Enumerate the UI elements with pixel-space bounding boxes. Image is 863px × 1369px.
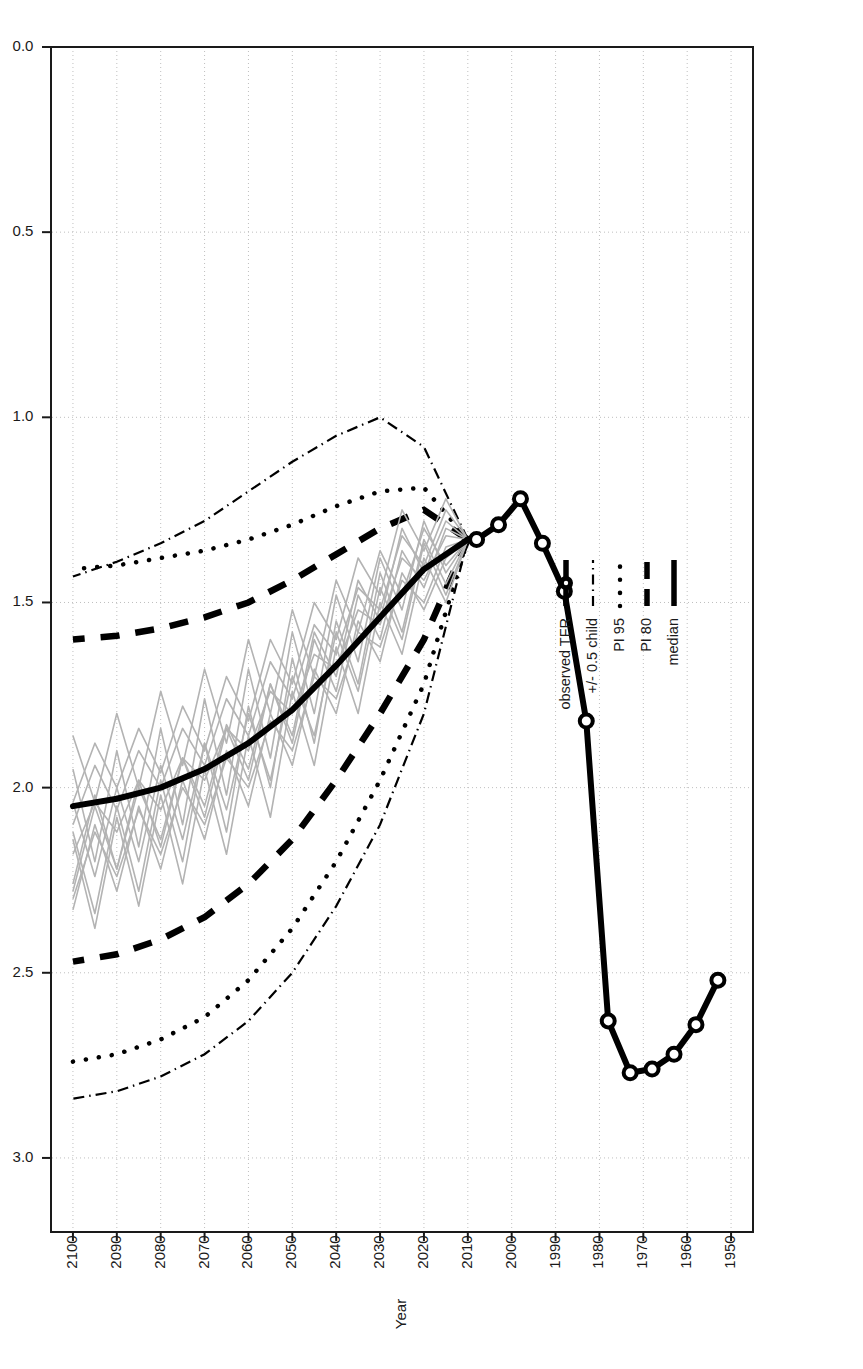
legend-item-label: observed TFR — [557, 618, 573, 710]
observed-point-marker — [492, 518, 505, 531]
tfr-projection-figure: 1950196019701980199020002010202020302040… — [0, 0, 863, 1369]
y-tick-label: 1.5 — [13, 592, 34, 609]
legend-item-label: +/- 0.5 child — [584, 618, 600, 693]
observed-point-marker — [514, 492, 527, 505]
x-tick-label: 1950 — [721, 1235, 738, 1268]
x-tick-label: 2040 — [326, 1235, 343, 1268]
y-tick-label: 0.0 — [13, 37, 34, 54]
x-tick-label: 1970 — [633, 1235, 650, 1268]
x-tick-label: 2020 — [414, 1235, 431, 1268]
observed-point-marker — [470, 533, 483, 546]
figure-background — [0, 0, 863, 1369]
x-tick-label: 1990 — [546, 1235, 563, 1268]
x-tick-label: 1980 — [589, 1235, 606, 1268]
y-tick-label: 0.5 — [13, 222, 34, 239]
legend-item-label: PI 95 — [611, 618, 627, 652]
observed-point-marker — [668, 1048, 681, 1061]
x-tick-label: 1960 — [677, 1235, 694, 1268]
legend-item-label: median — [665, 618, 681, 666]
x-tick-label: 2060 — [238, 1235, 255, 1268]
x-tick-label: 2030 — [370, 1235, 387, 1268]
observed-point-marker — [646, 1063, 659, 1076]
x-tick-label: 2090 — [107, 1235, 124, 1268]
observed-point-marker — [711, 974, 724, 987]
observed-point-marker — [602, 1014, 615, 1027]
x-tick-label: 2010 — [458, 1235, 475, 1268]
y-tick-label: 3.0 — [13, 1148, 34, 1165]
legend-item-label: PI 80 — [638, 618, 654, 652]
x-tick-label: 2070 — [195, 1235, 212, 1268]
legend-key-observed-marker-inner — [564, 581, 568, 585]
y-tick-label: 2.0 — [13, 778, 34, 795]
chart-canvas: 1950196019701980199020002010202020302040… — [0, 0, 863, 1369]
x-tick-label: 2100 — [63, 1235, 80, 1268]
x-tick-label: 2050 — [282, 1235, 299, 1268]
observed-point-marker — [536, 537, 549, 550]
x-tick-label: 2080 — [151, 1235, 168, 1268]
x-axis-title: Year — [392, 1299, 409, 1329]
y-tick-label: 2.5 — [13, 963, 34, 980]
y-tick-label: 1.0 — [13, 407, 34, 424]
observed-point-marker — [624, 1066, 637, 1079]
x-tick-label: 2000 — [502, 1235, 519, 1268]
observed-point-marker — [689, 1018, 702, 1031]
observed-point-marker — [580, 714, 593, 727]
